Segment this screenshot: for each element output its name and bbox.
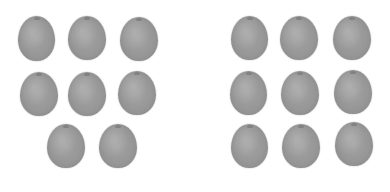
- kiwi-fruit: [68, 16, 106, 60]
- fruit-stem-end: [296, 17, 302, 20]
- kiwi-fruit: [333, 16, 371, 60]
- kiwi-fruit: [68, 72, 106, 116]
- fruit-stem-end: [63, 125, 69, 128]
- fruit-stem-end: [136, 18, 142, 21]
- kiwi-fruit: [231, 16, 268, 60]
- kiwi-fruit: [231, 124, 268, 168]
- kiwi-fruit: [281, 71, 319, 115]
- kiwi-fruit: [99, 124, 137, 168]
- fruit-stem-end: [115, 125, 121, 128]
- kiwi-fruit: [18, 16, 55, 61]
- kiwi-fruit: [120, 17, 158, 61]
- kiwi-fruit: [230, 71, 267, 115]
- kiwi-fruit: [280, 16, 318, 60]
- fruit-stem-end: [349, 17, 355, 20]
- kiwi-fruit: [282, 124, 320, 168]
- fruit-stem-end: [84, 17, 90, 20]
- fruit-stem-end: [34, 17, 40, 20]
- kiwi-fruit: [334, 70, 372, 114]
- fruit-stem-end: [298, 125, 304, 128]
- kiwi-fruit: [20, 72, 58, 116]
- fruit-stem-end: [246, 72, 252, 75]
- kiwi-fruit: [47, 124, 85, 168]
- fruit-stem-end: [297, 72, 303, 75]
- fruit-stem-end: [36, 73, 42, 76]
- fruit-stem-end: [351, 123, 357, 126]
- fruit-stem-end: [350, 71, 356, 74]
- kiwi-fruit: [335, 122, 373, 166]
- fruit-stem-end: [84, 73, 90, 76]
- fruit-stem-end: [134, 72, 140, 75]
- fruit-stem-end: [247, 17, 253, 20]
- fruit-stem-end: [247, 125, 253, 128]
- kiwi-fruit: [118, 71, 156, 115]
